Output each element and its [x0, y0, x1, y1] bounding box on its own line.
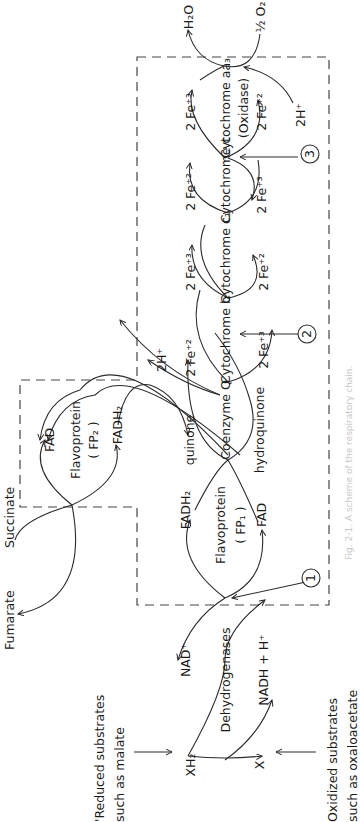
fp1-fadh2-label: FADH₂: [178, 491, 193, 530]
site-2-number: 2: [299, 330, 314, 338]
succinate-arc: [15, 505, 72, 540]
fp1-fad-label: FAD: [254, 503, 269, 527]
fumarate-arc: [18, 505, 76, 614]
fp2-label-1: Flavoprotein: [68, 401, 83, 479]
o2-label: ½ O₂: [253, 2, 268, 33]
oxidized-substrates-line1: Oxidized substrates: [325, 698, 340, 822]
xh2-label: XH₂: [183, 754, 198, 777]
fp1-label-2: ( FP₁ ): [233, 506, 248, 543]
hydroquinone-label: hydroquinone: [252, 387, 267, 474]
h-out-label: 2H⁺: [154, 348, 169, 372]
cyt-aa3-fe-top: 2 Fe⁺³: [183, 93, 198, 131]
nad-label: NAD⁺: [178, 643, 193, 677]
quinone-label: quinone: [182, 414, 197, 465]
cyt-c1-fe-bottom: 2 Fe⁺²: [256, 253, 271, 291]
nadh-label: NADH + H⁺: [256, 634, 271, 705]
membrane-boundary: [20, 57, 329, 605]
cyt-aa3-fe-bottom: 2 Fe⁺²: [254, 93, 269, 131]
cyt-b-fe-bottom: 2 Fe⁺³: [256, 331, 271, 369]
site-3-number: 3: [302, 150, 317, 158]
cyt-c-fe-bottom: 2 Fe⁺³: [254, 176, 269, 214]
h-in-label: 2H⁺: [293, 103, 308, 127]
cyt-aa3-label-2: (Oxidase): [236, 78, 251, 138]
succinate-label: Succinate: [2, 486, 17, 548]
cyt-b-label: Cytochrome b: [218, 296, 233, 384]
reduced-substrates-line1: 'Reduced substrates: [92, 695, 107, 822]
site-1-number: 1: [303, 574, 318, 582]
x-label: X: [252, 760, 267, 769]
fadh2-to-quinone: [118, 385, 188, 436]
h2o-label: H₂O: [181, 5, 196, 29]
cyt-c-fe-top: 2 Fe⁺²: [183, 173, 198, 211]
cyt-c1-label: Cytochrome c₁: [218, 212, 233, 304]
dehydrogenases-label: Dehydrogenases: [218, 627, 233, 732]
cyt-aa3-label-1: Cytochrome aa₃: [218, 58, 233, 158]
site-1-arrow: [232, 582, 306, 598]
fp2-fadh2-label: FADH₂: [110, 406, 125, 445]
x-arc: [188, 756, 262, 758]
coq-label: Coenzyme Q: [218, 380, 233, 460]
cyt-c1-fe-top: 2 Fe⁺³: [183, 253, 198, 291]
figure-caption: Fig. 2-1. A scheme of the respiratory ch…: [344, 366, 354, 560]
fp2-label-2: ( FP₂ ): [86, 421, 101, 458]
fp2-fad-label: FAD: [42, 428, 57, 452]
fumarate-label: Fumarate: [2, 590, 17, 650]
cyt-b-fe-top: 2 Fe⁺²: [183, 339, 198, 377]
h-out-arrow: [120, 320, 220, 395]
fp1-label-1: Flavoprotein: [213, 486, 228, 564]
oxidized-substrates-line2: such as oxaloacetate: [345, 690, 360, 822]
respiratory-chain-diagram: 1 2 3 'Reduced substrates such as malate…: [0, 0, 360, 822]
reduced-substrates-line2: such as malate: [112, 727, 127, 822]
